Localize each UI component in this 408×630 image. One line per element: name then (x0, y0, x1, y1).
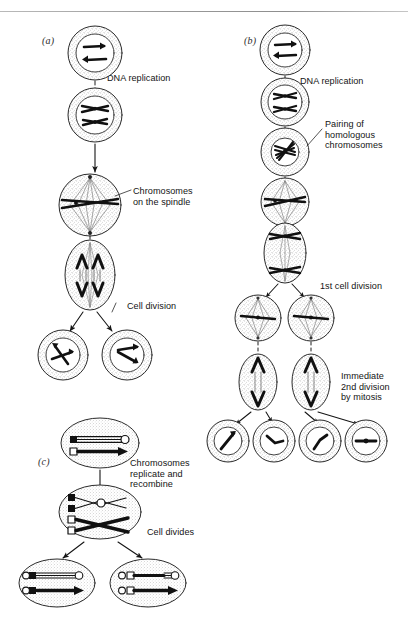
cell-b-paired-homologues (261, 128, 309, 176)
figure-root: (a) (b) (c) DNA replication Chromosomes … (0, 0, 408, 630)
cell-b-interphase (260, 25, 310, 75)
cell-b-meiosis-i-daughter-right (288, 295, 334, 341)
cell-a-replicated (68, 88, 122, 142)
arrow-c-divide-right (118, 542, 142, 558)
cell-a-anaphase (65, 240, 115, 310)
cell-b-gamete-3 (299, 420, 341, 462)
cell-a-daughter-left (38, 330, 88, 380)
cell-b-gamete-1 (207, 420, 249, 462)
arrow-a-split-left (70, 312, 83, 331)
cell-c-daughter-left (19, 559, 95, 607)
cell-c-recombination (59, 485, 141, 539)
cell-b-anaphase-ii-right (292, 354, 330, 410)
cell-a-daughter-right (102, 330, 152, 380)
arrow-c-divide-left (63, 542, 84, 558)
cell-b-anaphase-i (264, 223, 306, 283)
arrow-b-meiosis1-right (292, 284, 304, 297)
cell-b-anaphase-ii-left (239, 354, 277, 410)
chromosome-white-parent (70, 436, 129, 444)
cell-b-meiosis-i-daughter-left (235, 295, 281, 341)
cell-a-interphase (68, 26, 122, 80)
cell-b-metaphase-i (261, 178, 309, 226)
cell-a-metaphase-spindle (59, 174, 121, 236)
arrow-a-split-right (97, 312, 112, 331)
cell-c-parent (61, 418, 139, 468)
diagram-canvas (0, 0, 408, 630)
cell-b-replicated (261, 78, 309, 126)
cell-b-gamete-4 (345, 420, 387, 462)
arrow-b-meiosis1-left (266, 284, 278, 297)
cell-c-daughter-right (110, 559, 186, 607)
leader-b-pairing (307, 129, 322, 146)
cell-b-gamete-2 (253, 420, 295, 462)
